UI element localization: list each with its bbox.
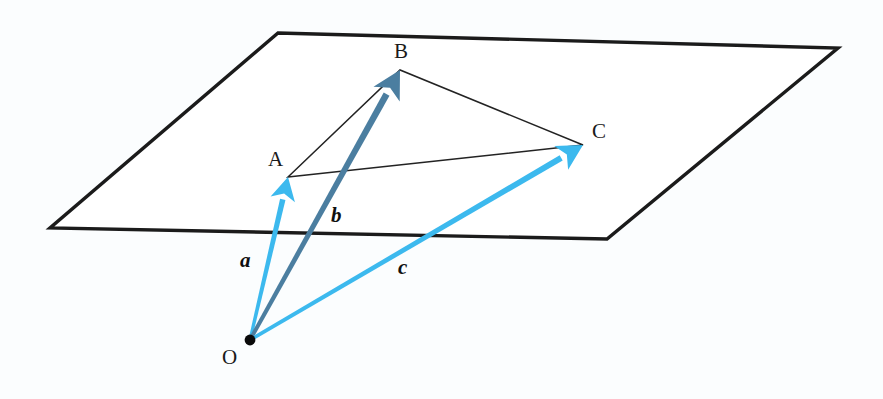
point-label-C: C: [592, 119, 606, 144]
point-label-O: O: [222, 345, 237, 370]
point-label-A: A: [268, 147, 283, 172]
vector-label-b: b: [331, 203, 342, 228]
vector-label-c: c: [398, 255, 407, 280]
plane-quadrilateral: [50, 33, 838, 239]
origin-point-dot: [245, 335, 256, 346]
vector-label-a: a: [240, 248, 251, 273]
point-label-B: B: [394, 39, 408, 64]
diagram-canvas: [0, 0, 883, 399]
vector-diagram-figure: O A B C a b c: [0, 0, 883, 399]
